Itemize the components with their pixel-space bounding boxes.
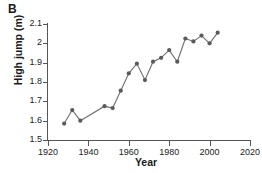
series-markers — [62, 31, 220, 126]
x-tick — [210, 141, 211, 146]
data-point — [216, 31, 220, 35]
y-axis-title: High jump (m) — [12, 0, 24, 105]
data-point — [151, 60, 155, 64]
plot-area — [48, 24, 250, 140]
x-tick-label: 2020 — [230, 147, 262, 157]
data-point — [119, 89, 123, 93]
y-tick-label: 1.5 — [4, 135, 42, 144]
data-point — [199, 34, 203, 38]
data-point — [102, 104, 106, 108]
series-high-jump — [48, 24, 250, 140]
chart-panel: B High jump (m) Year 1.51.61.71.81.922.1… — [0, 0, 262, 173]
series-line — [64, 33, 218, 124]
data-point — [78, 119, 82, 123]
x-tick-label: 1960 — [109, 147, 149, 157]
x-tick — [129, 141, 130, 146]
x-axis-title: Year — [40, 156, 252, 168]
x-tick — [169, 141, 170, 146]
x-tick-label: 1980 — [149, 147, 189, 157]
data-point — [183, 36, 187, 40]
x-tick — [88, 141, 89, 146]
data-point — [111, 106, 115, 110]
y-tick-label: 1.6 — [4, 116, 42, 125]
data-point — [135, 62, 139, 66]
data-point — [167, 48, 171, 52]
data-point — [143, 78, 147, 82]
data-point — [70, 108, 74, 112]
x-tick — [48, 141, 49, 146]
x-tick-label: 1940 — [68, 147, 108, 157]
data-point — [62, 121, 66, 125]
x-tick-label: 2000 — [190, 147, 230, 157]
x-tick-label: 1920 — [28, 147, 68, 157]
x-tick — [250, 141, 251, 146]
data-point — [127, 71, 131, 75]
y-tick-label: 2 — [4, 38, 42, 47]
data-point — [159, 56, 163, 60]
y-tick-label: 1.7 — [4, 96, 42, 105]
y-tick-label: 1.9 — [4, 58, 42, 67]
data-point — [208, 41, 212, 45]
y-tick-label: 1.8 — [4, 77, 42, 86]
data-point — [175, 60, 179, 64]
y-tick-label: 2.1 — [4, 19, 42, 28]
data-point — [191, 39, 195, 43]
x-axis-line — [47, 140, 251, 141]
